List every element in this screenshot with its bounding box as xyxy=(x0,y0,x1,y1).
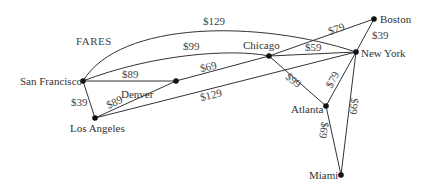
city-label-denver: Denver xyxy=(121,88,154,100)
fare-sf-chicago: $99 xyxy=(183,40,200,52)
edge-atlanta-miami xyxy=(326,106,341,175)
city-label-los-angeles: Los Angeles xyxy=(70,122,125,134)
fare-la-ny: $129 xyxy=(199,86,224,103)
fare-ny-miami: $99 xyxy=(347,98,360,116)
fare-sf-denver: $89 xyxy=(122,68,139,80)
fare-chicago-boston: $79 xyxy=(327,20,347,37)
edge-sf-chicago xyxy=(83,53,269,81)
node-chicago xyxy=(266,53,272,59)
city-label-miami: Miami xyxy=(309,169,338,181)
city-label-atlanta: Atlanta xyxy=(291,103,323,115)
node-boston xyxy=(371,16,377,22)
node-new-york xyxy=(353,49,359,55)
fare-denver-chicago: $69 xyxy=(199,58,218,74)
fare-chicago-ny: $59 xyxy=(305,41,322,53)
fare-sf-ny: $129 xyxy=(203,15,226,27)
city-label-boston: Boston xyxy=(380,13,412,25)
fares-graph: FARES San Francisco Denver Chicago Bosto… xyxy=(0,0,428,188)
node-atlanta xyxy=(323,103,329,109)
fare-ny-atlanta: $79 xyxy=(323,69,342,90)
city-label-chicago: Chicago xyxy=(243,39,280,51)
city-label-san-francisco: San Francisco xyxy=(20,75,83,87)
fare-chicago-atlanta: $99 xyxy=(283,70,304,90)
fare-atlanta-miami: $69 xyxy=(317,121,332,140)
fare-sf-la: $39 xyxy=(71,96,88,108)
fare-boston-ny: $39 xyxy=(372,29,389,41)
node-denver xyxy=(173,78,179,84)
node-miami xyxy=(338,172,344,178)
city-label-new-york: New York xyxy=(361,47,406,59)
diagram-title: FARES xyxy=(76,35,112,47)
node-los-angeles xyxy=(92,115,98,121)
